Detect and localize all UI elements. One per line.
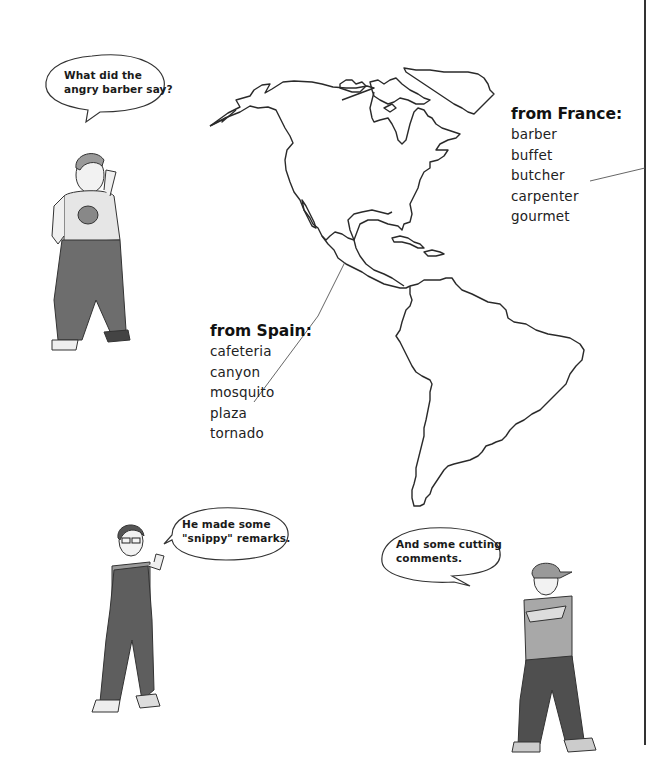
- girl-glasses-figure: [92, 525, 164, 712]
- bubble-line: He made some: [182, 517, 290, 531]
- bubble-line: comments.: [396, 551, 502, 565]
- boy-cap-figure: [512, 563, 596, 752]
- list-item: plaza: [210, 403, 312, 424]
- list-item: cafeteria: [210, 341, 312, 362]
- spain-heading: from Spain:: [210, 321, 312, 341]
- list-item: mosquito: [210, 382, 312, 403]
- list-item: canyon: [210, 362, 312, 383]
- list-item: barber: [511, 124, 622, 145]
- spain-word-list: from Spain: cafeteria canyon mosquito pl…: [210, 321, 312, 444]
- bubble-line: What did the: [64, 68, 173, 82]
- list-item: tornado: [210, 423, 312, 444]
- list-item: butcher: [511, 165, 622, 186]
- bubble-line: "snippy" remarks.: [182, 531, 290, 545]
- boy-thinking-figure: [52, 154, 130, 350]
- bubble-line: angry barber say?: [64, 82, 173, 96]
- list-item: buffet: [511, 145, 622, 166]
- bubble-bottom-right-text: And some cutting comments.: [396, 537, 502, 565]
- list-item: gourmet: [511, 206, 622, 227]
- bubble-top-left-text: What did the angry barber say?: [64, 68, 173, 96]
- france-heading: from France:: [511, 104, 622, 124]
- bubble-bottom-left-text: He made some "snippy" remarks.: [182, 517, 290, 545]
- list-item: carpenter: [511, 186, 622, 207]
- france-word-list: from France: barber buffet butcher carpe…: [511, 104, 622, 227]
- bubble-line: And some cutting: [396, 537, 502, 551]
